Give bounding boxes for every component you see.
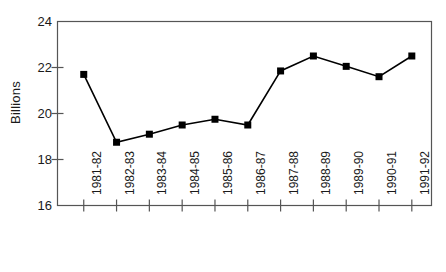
data-point-marker [408,53,415,60]
data-point-marker [113,139,120,146]
data-point-marker [146,131,153,138]
data-point-marker [179,122,186,129]
plot-area [0,0,446,272]
data-line-series-billions [84,56,412,142]
data-point-marker [310,53,317,60]
line-chart-figure: Billions 1618202224 1981-821982-831983-8… [0,0,446,272]
data-point-marker [80,71,87,78]
data-point-marker [376,73,383,80]
data-point-marker [211,116,218,123]
data-point-markers [80,53,415,146]
data-point-marker [343,63,350,70]
data-point-marker [244,122,251,129]
data-point-marker [277,67,284,74]
plot-frame-rect [58,22,432,206]
plot-frame [58,22,432,206]
